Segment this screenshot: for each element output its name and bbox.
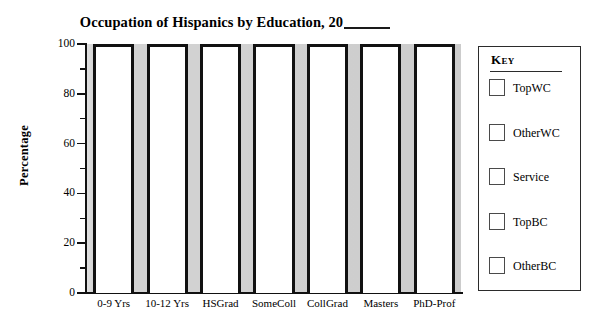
y-axis-tick-label: 40 <box>49 187 75 199</box>
legend-item-label: Service <box>513 169 549 185</box>
legend-key-box: Key TopWCOtherWCServiceTopBCOtherBC <box>478 46 581 291</box>
y-axis-tick-label: 0 <box>49 287 75 299</box>
legend-item-label: OtherBC <box>513 258 556 274</box>
x-axis-tick-label: PhD-Prof <box>402 297 467 309</box>
y-axis-tick-minor <box>80 118 85 119</box>
legend-item-label: TopWC <box>513 80 551 96</box>
legend-swatch-box-icon <box>489 257 505 274</box>
bar <box>253 44 294 293</box>
bar <box>360 44 401 293</box>
legend-item-label: TopBC <box>513 214 548 230</box>
y-axis-tick-label: 80 <box>49 88 75 100</box>
legend-swatch-box-icon <box>489 213 505 230</box>
y-axis-tick-label: 20 <box>49 237 75 249</box>
x-axis-tick-labels: 0-9 Yrs10-12 YrsHSGradSomeCollCollGradMa… <box>87 297 461 315</box>
bar <box>147 44 188 293</box>
y-axis-tick-major <box>77 242 85 244</box>
y-axis-tick-major <box>77 292 85 294</box>
legend-title: Key <box>491 52 515 68</box>
legend-item[interactable]: OtherBC <box>489 257 581 275</box>
y-axis-tick-labels: 100806040200 <box>45 0 75 325</box>
legend-title-underline <box>490 71 562 72</box>
y-axis-tick-major <box>77 193 85 195</box>
y-axis-tick-label: 60 <box>49 138 75 150</box>
y-axis-tick-major <box>77 143 85 145</box>
bar <box>93 44 134 293</box>
y-axis-line <box>85 43 87 294</box>
chart-title-text: Occupation of Hispanics by Education, 20 <box>80 14 343 30</box>
y-axis-tick-minor <box>80 168 85 169</box>
legend-item[interactable]: TopWC <box>489 79 581 97</box>
legend-item[interactable]: OtherWC <box>489 124 581 142</box>
y-axis-tick-major <box>77 43 85 45</box>
legend-item[interactable]: TopBC <box>489 213 581 231</box>
bar <box>307 44 348 293</box>
y-axis-title: Percentage <box>17 96 32 216</box>
y-axis-tick-minor <box>80 68 85 69</box>
legend-swatch-box-icon <box>489 168 505 185</box>
y-axis-tick-minor <box>80 218 85 219</box>
y-axis-tick-label: 100 <box>49 38 75 50</box>
legend-swatch-box-icon <box>489 79 505 96</box>
y-axis-tick-major <box>77 93 85 95</box>
legend-item[interactable]: Service <box>489 168 581 186</box>
chart-title-blank-underline <box>344 27 390 29</box>
legend-item-label: OtherWC <box>513 125 560 141</box>
bar <box>200 44 241 293</box>
legend-swatch-box-icon <box>489 124 505 141</box>
bar <box>414 44 455 293</box>
y-axis-tick-minor <box>80 267 85 268</box>
